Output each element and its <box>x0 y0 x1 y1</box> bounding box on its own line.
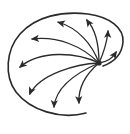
boundary-curve <box>8 13 123 115</box>
arrows-group <box>17 17 120 108</box>
arrow-up-right <box>99 30 112 63</box>
arrowhead-icon <box>56 19 66 28</box>
vector-field-diagram <box>0 0 130 134</box>
arrowhead-icon <box>17 60 28 71</box>
arrow-shaft <box>79 63 99 103</box>
arrow-shaft <box>87 20 99 63</box>
source-point <box>96 60 101 65</box>
arrow-shaft <box>20 54 99 67</box>
arrowhead-icon <box>50 100 57 108</box>
diagram-canvas <box>0 0 130 134</box>
